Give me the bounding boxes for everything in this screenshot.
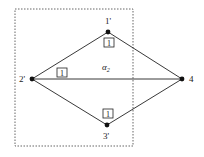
node-label-2-prime: 2': [19, 74, 26, 84]
node-label-3-prime: 3': [103, 131, 110, 141]
weight-box-bottom: 1: [103, 109, 113, 119]
edge-2-1: [32, 32, 108, 79]
node-1-prime: [106, 30, 111, 35]
node-3-prime: [105, 123, 110, 128]
node-4: [180, 77, 185, 82]
node-2-prime: [30, 77, 35, 82]
edge-2-3: [32, 79, 107, 125]
weight-box-top: 1: [104, 38, 114, 48]
edge-1-4: [108, 32, 182, 79]
svg-text:1: 1: [107, 39, 111, 48]
weight-box-left: 1: [57, 68, 67, 78]
node-label-4: 4: [189, 74, 194, 84]
region-label-alpha: α2: [102, 62, 110, 73]
svg-text:1: 1: [60, 69, 64, 78]
graph-diagram: 1' 2' 3' 4 1 1 1 α2: [0, 0, 204, 157]
edge-3-4: [107, 79, 182, 125]
node-label-1-prime: 1': [105, 16, 112, 26]
svg-text:1: 1: [106, 110, 110, 119]
